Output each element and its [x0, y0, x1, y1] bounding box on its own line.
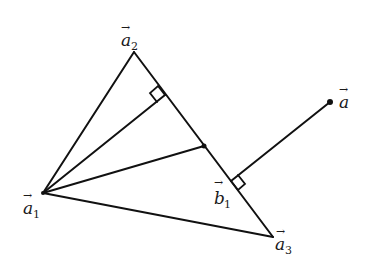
right-angle-marker-altitude: [150, 86, 165, 102]
altitude-a1: [43, 95, 165, 193]
vector-arrow-icon: →: [121, 21, 130, 34]
vector-arrow-icon: →: [23, 189, 32, 202]
vector-arrow-icon: →: [339, 83, 348, 96]
right-angle-marker-b1: [231, 175, 245, 190]
label-a3: a 3 →: [275, 225, 292, 257]
point-a1: [41, 191, 45, 195]
label-a: a →: [339, 83, 349, 112]
vector-arrow-icon: →: [276, 225, 285, 238]
label-a2: a 2 →: [121, 21, 138, 53]
triangle-projection-diagram: a 2 → a 1 → a 3 → b 1 → a →: [0, 0, 373, 273]
point-a: [327, 99, 333, 105]
svg-text:1: 1: [33, 208, 40, 221]
edge-a1-a3: [43, 193, 273, 237]
svg-text:1: 1: [224, 198, 231, 211]
edge-a1-a2: [43, 52, 134, 193]
label-a1: a 1 →: [23, 189, 40, 221]
vector-arrow-icon: →: [214, 176, 223, 189]
point-mid: [202, 144, 207, 149]
segment-a-b1: [231, 102, 330, 181]
segment-a1-mid: [43, 146, 204, 193]
svg-text:2: 2: [131, 40, 138, 53]
svg-text:3: 3: [285, 244, 292, 257]
label-b1: b 1 →: [214, 176, 231, 211]
